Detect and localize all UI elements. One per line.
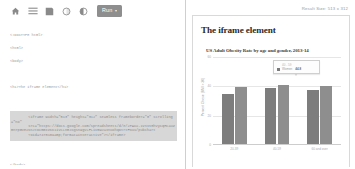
tooltip-value-row: Women 44.8 — [277, 67, 316, 71]
y-tick-label: 40 — [208, 84, 211, 88]
chart-tooltip: 40 - 59 Women 44.8 — [273, 60, 320, 74]
chart-plot-area: Percent Obese (BMI > 30) 60 40 20 0 — [197, 57, 347, 161]
bar-women[interactable] — [320, 86, 332, 144]
bar-men[interactable] — [222, 94, 234, 144]
code-selection-block: <iframe width="513" height="312" seamles… — [10, 111, 177, 141]
code-editor-pane: Run ▾ <!DOCTYPE html> <html> <body> <h1>… — [0, 0, 186, 169]
page-title: The iframe element — [201, 25, 349, 35]
x-axis-line — [213, 144, 341, 145]
tooltip-swatch-icon — [277, 68, 280, 71]
tooltip-pointer — [294, 73, 298, 76]
code-line: ?oid=747010&amp;format=interactive"></if… — [28, 133, 125, 137]
bar-group — [307, 86, 332, 144]
result-pane: Result Size: 513 x 312 The iframe elemen… — [186, 0, 355, 169]
bar-men[interactable] — [265, 88, 277, 144]
run-button[interactable]: Run ▾ — [97, 5, 122, 16]
chart-title: US Adult Obesity Rate by age and gender,… — [206, 48, 347, 53]
code-text-area[interactable]: <!DOCTYPE html> <html> <body> <h1>The if… — [10, 24, 177, 165]
editor-toolbar: Run ▾ — [0, 0, 185, 19]
y-tick-label: 0 — [209, 143, 211, 147]
result-iframe: The iframe element US Adult Obesity Rate… — [192, 15, 350, 167]
y-tick-label: 20 — [208, 114, 211, 118]
run-button-label: Run — [102, 8, 113, 13]
tooltip-spacer — [277, 64, 280, 67]
try-it-editor: Run ▾ <!DOCTYPE html> <html> <body> <h1>… — [0, 0, 355, 169]
tooltip-value: 44.8 — [295, 67, 301, 71]
x-tick-label: 20-39 — [221, 147, 247, 155]
bar-men[interactable] — [307, 90, 319, 144]
code-line-blank — [10, 98, 177, 102]
bar-women[interactable] — [278, 85, 290, 144]
code-line: <html> — [10, 46, 177, 50]
contrast-icon[interactable] — [78, 6, 89, 17]
x-axis-labels: 20-39 40-59 60 and over — [213, 147, 341, 155]
bar-group — [222, 87, 247, 144]
tooltip-series-label: Women — [282, 67, 292, 71]
y-axis-ticks: 60 40 20 0 — [203, 57, 212, 145]
obesity-bar-chart: US Adult Obesity Rate by age and gender,… — [197, 48, 347, 166]
home-icon[interactable] — [10, 6, 21, 17]
code-line-blank — [10, 72, 177, 76]
code-line: </body> — [10, 163, 177, 165]
bar-group — [265, 85, 290, 144]
x-tick-label: 40-59 — [264, 147, 290, 155]
result-size-label: Result Size: 513 x 312 — [302, 6, 348, 11]
x-tick-label: 60 and over — [307, 147, 333, 155]
code-line: src="https://docs.google.com/spreadsheet… — [11, 124, 175, 132]
chart-grid: 40 - 59 Women 44.8 — [213, 57, 341, 145]
half-circle-icon[interactable] — [61, 6, 72, 17]
y-tick-label: 60 — [208, 55, 211, 59]
bar-women[interactable] — [235, 87, 247, 144]
code-line-blank — [10, 150, 177, 154]
save-icon[interactable] — [44, 6, 55, 17]
chevron-down-icon: ▾ — [115, 9, 117, 13]
code-line: <body> — [10, 59, 177, 63]
code-line: <!DOCTYPE html> — [10, 33, 177, 37]
menu-icon[interactable] — [27, 6, 38, 17]
code-line: <h1>The iframe element</h1> — [10, 85, 177, 89]
code-line: <iframe width="513" height="312" seamles… — [11, 115, 173, 123]
result-bar: Result Size: 513 x 312 — [186, 0, 355, 16]
